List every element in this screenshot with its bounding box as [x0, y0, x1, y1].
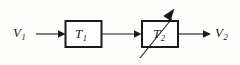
- input-arrow-head: [58, 30, 66, 38]
- output-arrow: [178, 30, 211, 38]
- block-diagram: V1 T1 T2 V2: [0, 0, 240, 65]
- link-arrow-head: [134, 30, 142, 38]
- block-t1: [66, 21, 102, 47]
- input-arrow: [36, 30, 66, 38]
- link-arrow: [102, 30, 142, 38]
- variable-arrow-head: [163, 9, 174, 21]
- output-arrow-head: [203, 30, 211, 38]
- diagram-canvas: [0, 0, 240, 65]
